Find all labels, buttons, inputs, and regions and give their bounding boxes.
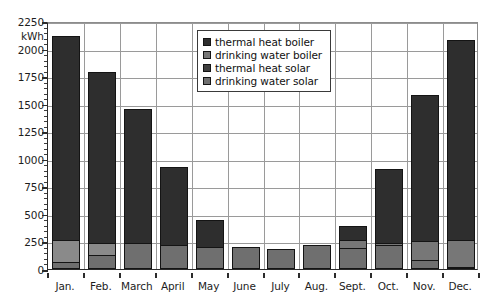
legend-swatch-icon-thermal-heat-solar [203,64,211,72]
bar-april[interactable] [160,167,188,269]
y-axis: 2250 kWh 2000 1750 1500 1250 1000 750 50… [0,0,44,303]
legend-swatch-icon-drinking-water-boiler [203,51,211,59]
x-tick-label-april: April [155,280,191,292]
x-tick-label-march: March [119,280,155,292]
x-axis-tick-6 [263,273,265,278]
gridline-vertical-9 [371,23,372,269]
legend-label-drinking-water-solar: drinking water solar [215,75,318,87]
legend: thermal heat boiler drinking water boile… [197,30,331,92]
bar-june[interactable] [232,247,260,269]
bar-segment-thermal-heat-boiler [160,167,188,245]
bar-segment-drinking-water-solar [411,260,439,269]
bar-segment-thermal-heat-boiler [88,72,116,243]
gridline-vertical-3 [156,23,157,269]
y-tick-label-2250: 2250 [0,17,44,28]
x-tick-label-dec: Dec. [442,280,478,292]
bar-segment-drinking-water-solar [339,248,367,269]
y-tick-label-0: 0 [0,265,44,276]
y-tick-label-500: 500 [0,210,44,221]
legend-label-thermal-heat-solar: thermal heat solar [215,62,310,74]
bar-july[interactable] [267,249,295,269]
bar-sept[interactable] [339,226,367,269]
x-axis-tick-8 [334,273,336,278]
legend-label-thermal-heat-boiler: thermal heat boiler [215,36,314,48]
bar-segment-thermal-heat-boiler [375,169,403,242]
bar-segment-drinking-water-solar [447,267,475,269]
y-tick-label-1000: 1000 [0,155,44,166]
bar-segment-drinking-water-solar [160,245,188,269]
gridline-vertical-1 [84,23,85,269]
legend-item-thermal-heat-solar: thermal heat solar [203,61,322,74]
bar-segment-thermal-heat-boiler [447,40,475,240]
legend-item-drinking-water-solar: drinking water solar [203,74,322,87]
legend-item-thermal-heat-boiler: thermal heat boiler [203,35,322,48]
gridline-vertical-10 [407,23,408,269]
x-tick-label-oct: Oct. [370,280,406,292]
x-axis-tick-2 [119,273,121,278]
legend-item-drinking-water-boiler: drinking water boiler [203,48,322,61]
x-tick-label-july: July [263,280,299,292]
y-tick-label-250: 250 [0,237,44,248]
gridline-vertical-2 [120,23,121,269]
bar-segment-drinking-water-solar [267,249,295,269]
bar-segment-drinking-water-boiler [339,240,367,248]
x-tick-label-aug: Aug. [298,280,334,292]
bar-dec[interactable] [447,40,475,269]
x-tick-label-may: May [191,280,227,292]
bar-segment-drinking-water-solar [124,243,152,269]
bar-segment-drinking-water-solar [375,245,403,269]
x-axis-tick-12 [478,273,480,278]
bar-segment-thermal-heat-boiler [196,220,224,247]
bar-segment-drinking-water-boiler [447,240,475,267]
y-axis-unit-label: kWh [0,31,44,42]
bar-nov[interactable] [411,95,439,269]
y-axis-tick-0 [42,270,48,272]
x-axis-tick-9 [370,273,372,278]
y-tick-label-2000: 2000 [0,45,44,56]
x-tick-label-nov: Nov. [406,280,442,292]
y-tick-label-750: 750 [0,182,44,193]
bar-segment-drinking-water-solar [196,247,224,269]
bar-segment-drinking-water-solar [303,245,331,269]
x-axis-tick-7 [298,273,300,278]
gridline-horizontal-2250 [48,23,477,24]
x-axis-tick-1 [83,273,85,278]
y-tick-label-1750: 1750 [0,72,44,83]
legend-label-drinking-water-boiler: drinking water boiler [215,49,322,61]
bar-segment-thermal-heat-boiler [124,109,152,243]
bar-segment-drinking-water-solar [52,262,80,269]
x-tick-label-feb: Feb. [83,280,119,292]
bar-segment-drinking-water-solar [232,247,260,269]
legend-swatch-icon-thermal-heat-boiler [203,38,211,46]
bar-aug[interactable] [303,245,331,269]
x-axis-tick-4 [191,273,193,278]
x-axis-tick-3 [155,273,157,278]
bar-oct[interactable] [375,169,403,269]
legend-swatch-icon-drinking-water-solar [203,77,211,85]
x-tick-label-jan: Jan. [47,280,83,292]
y-tick-label-1500: 1500 [0,100,44,111]
bar-feb[interactable] [88,72,116,269]
x-tick-label-sept: Sept. [334,280,370,292]
bar-may[interactable] [196,220,224,269]
bar-segment-thermal-heat-boiler [339,226,367,240]
gridline-vertical-11 [443,23,444,269]
x-tick-label-june: June [227,280,263,292]
bar-segment-drinking-water-solar [88,255,116,269]
bar-segment-thermal-heat-boiler [52,36,80,240]
bar-segment-thermal-heat-solar [88,243,116,255]
x-axis: Jan.Feb.MarchAprilMayJuneJulyAug.Sept.Oc… [47,273,478,297]
stacked-bar-chart: 2250 kWh 2000 1750 1500 1250 1000 750 50… [0,0,484,303]
bar-march[interactable] [124,109,152,269]
y-tick-label-1250: 1250 [0,127,44,138]
x-axis-tick-0 [47,273,49,278]
x-axis-tick-10 [406,273,408,278]
bar-segment-thermal-heat-boiler [411,95,439,240]
bar-jan[interactable] [52,36,80,269]
x-axis-tick-5 [227,273,229,278]
bar-segment-drinking-water-boiler [411,241,439,260]
x-axis-tick-11 [442,273,444,278]
gridline-vertical-4 [192,23,193,269]
gridline-vertical-8 [335,23,336,269]
bar-segment-thermal-heat-solar [52,240,80,262]
